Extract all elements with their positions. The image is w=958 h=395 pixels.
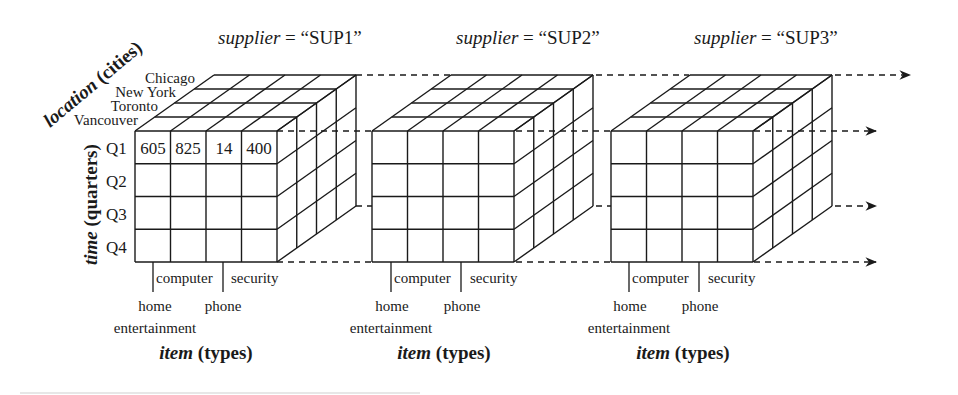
svg-text:computer: computer <box>632 270 689 286</box>
cube-sup3 <box>611 75 832 262</box>
cell-value: 400 <box>246 139 272 158</box>
item-labels-sup3: computer security home phone entertainme… <box>588 262 756 364</box>
location-label: Vancouver <box>74 112 138 128</box>
time-label: Q1 <box>106 139 127 158</box>
time-label: Q3 <box>106 205 127 224</box>
item-axis-label: item (types) <box>636 342 729 364</box>
cube-title-sup2: supplier = “SUP2” <box>456 27 600 48</box>
time-axis-label: time (quarters) <box>80 144 102 265</box>
time-label: Q4 <box>106 238 127 257</box>
svg-text:security: security <box>470 270 518 286</box>
svg-text:home: home <box>138 298 172 314</box>
item-axis-label: item (types) <box>159 342 252 364</box>
time-label: Q2 <box>106 172 127 191</box>
cube-sup2 <box>372 75 593 262</box>
cell-value: 825 <box>175 139 201 158</box>
item-axis-label: item (types) <box>397 342 490 364</box>
item-labels-sup2: computer security home phone entertainme… <box>350 262 518 364</box>
cell-value: 605 <box>140 139 166 158</box>
cube-title-sup3: supplier = “SUP3” <box>694 27 838 48</box>
svg-text:security: security <box>708 270 756 286</box>
svg-text:phone: phone <box>444 298 481 314</box>
cube-sup1 <box>135 75 356 262</box>
svg-text:home: home <box>613 298 647 314</box>
svg-text:phone: phone <box>205 298 242 314</box>
svg-text:entertainment: entertainment <box>350 320 433 336</box>
svg-text:computer: computer <box>156 270 213 286</box>
cube-title-sup1: supplier = “SUP1” <box>218 27 362 48</box>
time-labels: Q1 Q2 Q3 Q4 <box>106 139 127 257</box>
svg-text:home: home <box>375 298 409 314</box>
cell-value: 14 <box>216 139 234 158</box>
svg-text:security: security <box>231 270 279 286</box>
svg-text:entertainment: entertainment <box>114 320 197 336</box>
svg-text:phone: phone <box>682 298 719 314</box>
svg-text:entertainment: entertainment <box>588 320 671 336</box>
svg-text:computer: computer <box>394 270 451 286</box>
data-cube-diagram: supplier = “SUP1” supplier = “SUP2” supp… <box>0 0 958 395</box>
item-labels-sup1: computer security home phone entertainme… <box>114 262 279 364</box>
